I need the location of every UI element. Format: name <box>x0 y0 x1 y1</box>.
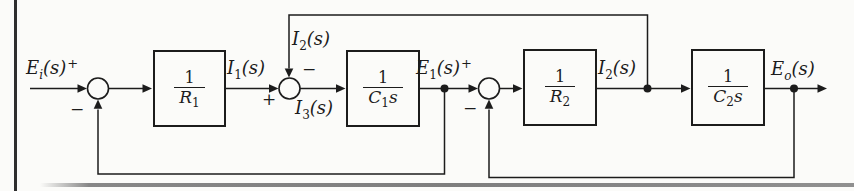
signal-label-e1: E1(s)+ <box>416 58 472 78</box>
signal-label-i1: I1(s) <box>227 58 265 78</box>
fraction-1-over-C2s: 1 C2s <box>708 69 747 107</box>
signal-ei-args: (s) <box>43 57 66 78</box>
scan-streak-bottom <box>40 183 854 187</box>
denominator-subscript: 1 <box>192 97 200 111</box>
arrowhead-into-c2s <box>681 84 691 93</box>
signal-i3-args: (s) <box>310 97 333 118</box>
fraction-1-over-R2: 1 R2 <box>545 69 575 107</box>
fraction-denominator: R2 <box>545 86 575 106</box>
signal-label-eo: Eo(s) <box>771 59 815 79</box>
arrowhead-top-into-j2 <box>285 69 294 78</box>
fraction-numerator: 1 <box>363 70 402 88</box>
signal-e1-base: E <box>416 57 429 78</box>
summing-junction-1 <box>88 78 109 99</box>
fraction-1-over-C1s: 1 C1s <box>363 70 402 108</box>
denominator-letter: R <box>550 86 563 106</box>
denominator-subscript: 1 <box>381 97 389 111</box>
takeoff-point-i2 <box>644 85 652 93</box>
summing-junction-3 <box>479 78 500 99</box>
sign-j1-minus: − <box>68 100 86 118</box>
fraction-numerator: 1 <box>545 69 575 87</box>
block-diagram-figure: 1 R1 1 C1s 1 R2 1 C2s Ei(s)+ I1(s) I2(s)… <box>0 0 854 191</box>
denominator-letter: C <box>713 86 726 106</box>
page-edge-line <box>14 0 17 191</box>
arrowhead-into-r2 <box>513 84 523 93</box>
sign-j2-minus: − <box>300 60 318 78</box>
fraction-numerator: 1 <box>174 70 204 88</box>
denominator-subscript: 2 <box>563 96 571 110</box>
transfer-block-1-over-R1: 1 R1 <box>153 50 226 127</box>
signal-label-i2-top: I2(s) <box>292 29 330 49</box>
sign-j1-plus: + <box>67 56 78 71</box>
sign-j3-plus: + <box>461 56 472 71</box>
signal-i2-mid-sub: 2 <box>605 68 613 82</box>
summing-junction-2 <box>279 78 300 99</box>
sign-j3-minus: − <box>461 99 479 117</box>
transfer-block-1-over-C1s: 1 C1s <box>346 50 420 127</box>
fraction-numerator: 1 <box>708 69 747 87</box>
takeoff-point-e1 <box>441 85 449 93</box>
signal-i2-mid-args: (s) <box>613 57 636 78</box>
signal-e1-sub: 1 <box>429 68 437 82</box>
signal-i3-sub: 3 <box>302 108 310 122</box>
transfer-block-1-over-C2s: 1 C2s <box>691 49 765 126</box>
signal-ei-base: E <box>26 57 39 78</box>
sign-j2-plus: + <box>260 90 278 108</box>
signal-i2-top-sub: 2 <box>299 39 307 53</box>
arrowhead-output <box>818 84 828 93</box>
signal-label-i3: I3(s) <box>295 98 333 118</box>
signal-eo-args: (s) <box>791 58 814 79</box>
signal-e1-args: (s) <box>437 57 460 78</box>
arrowhead-fb-into-j3 <box>485 100 494 109</box>
takeoff-point-eo <box>790 85 798 93</box>
denominator-letter: R <box>179 87 192 107</box>
arrowhead-into-c1s <box>336 84 346 93</box>
signal-i1-args: (s) <box>242 57 265 78</box>
denominator-subscript: 2 <box>726 96 734 110</box>
fraction-1-over-R1: 1 R1 <box>174 70 204 108</box>
signal-i2-top-args: (s) <box>307 28 330 49</box>
arrowhead-into-j3 <box>469 84 479 93</box>
arrowhead-into-j1 <box>78 84 88 93</box>
fraction-denominator: C2s <box>708 86 747 106</box>
arrowhead-into-r1 <box>143 84 153 93</box>
denominator-suffix: s <box>734 86 743 106</box>
denominator-suffix: s <box>389 87 398 107</box>
fraction-denominator: R1 <box>174 87 204 107</box>
signal-label-i2-mid: I2(s) <box>598 58 636 78</box>
arrowhead-fb-into-j1 <box>94 100 103 109</box>
signal-label-ei: Ei(s)+ <box>26 58 78 78</box>
transfer-block-1-over-R2: 1 R2 <box>523 49 597 126</box>
fraction-denominator: C1s <box>363 87 402 107</box>
denominator-letter: C <box>368 87 381 107</box>
signal-eo-base: E <box>771 58 784 79</box>
signal-i1-sub: 1 <box>234 68 242 82</box>
